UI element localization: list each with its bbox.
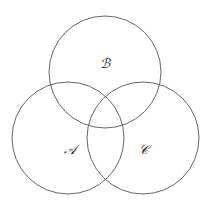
- venn-diagram: ℬ 𝒜 𝒞: [0, 0, 209, 206]
- set-c-circle: [87, 82, 199, 194]
- set-a-label: 𝒜: [64, 142, 80, 157]
- set-b-label: ℬ: [100, 56, 111, 71]
- set-c-label: 𝒞: [139, 142, 152, 157]
- set-a-circle: [12, 82, 124, 194]
- set-b-circle: [49, 16, 161, 128]
